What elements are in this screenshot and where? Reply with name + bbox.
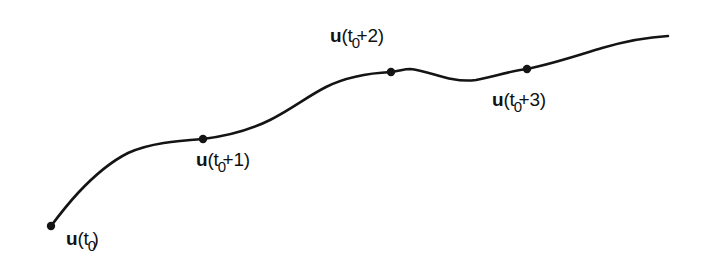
trajectory-figure: u(t0) u(t0+1) u(t0+2) u(t0+3) — [0, 0, 705, 269]
sample-point-t0p1 — [199, 135, 207, 143]
sample-label-t0-function: u — [66, 228, 77, 249]
sample-label-t0p2-suffix: +2) — [356, 25, 383, 46]
trajectory-curve — [51, 36, 668, 226]
sample-point-t0p3 — [523, 65, 531, 73]
sample-label-t0-suffix: ) — [92, 228, 98, 249]
sample-label-t0p3: u(t0+3) — [492, 90, 550, 110]
sample-label-t0p3-function: u — [492, 89, 503, 110]
sample-label-t0p2: u(t0+2) — [330, 26, 388, 46]
sample-label-t0p2-function: u — [330, 25, 341, 46]
sample-label-t0p1: u(t0+1) — [196, 150, 254, 170]
sample-point-t0 — [47, 222, 55, 230]
sample-label-t0p3-suffix: +3) — [518, 89, 545, 110]
sample-label-t0: u(t0) — [66, 229, 103, 249]
sample-label-t0p1-function: u — [196, 149, 207, 170]
sample-point-t0p2 — [387, 68, 395, 76]
sample-label-t0p1-suffix: +1) — [222, 149, 249, 170]
